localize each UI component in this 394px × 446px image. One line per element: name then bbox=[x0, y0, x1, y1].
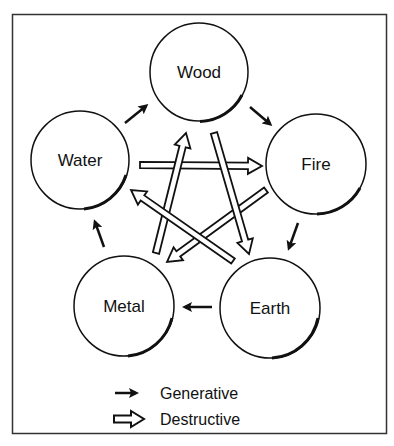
element-label-metal: Metal bbox=[103, 297, 145, 316]
destructive-arrow-icon bbox=[114, 411, 144, 427]
element-node-metal: Metal bbox=[74, 256, 174, 356]
element-node-earth: Earth bbox=[220, 258, 320, 358]
element-node-water: Water bbox=[31, 111, 129, 209]
destructive-arrow-water-to-fire bbox=[140, 158, 262, 174]
element-label-earth: Earth bbox=[250, 299, 291, 318]
element-label-water: Water bbox=[58, 151, 103, 170]
element-node-wood: Wood bbox=[150, 23, 248, 122]
generative-arrow-fire-to-earth bbox=[289, 223, 298, 248]
destructive-arrow-metal-to-wood bbox=[153, 133, 191, 254]
legend-generative: Generative bbox=[115, 385, 238, 402]
five-elements-diagram: Wood Fire Earth Metal Water Generative D… bbox=[0, 0, 394, 446]
destructive-arrows bbox=[131, 132, 268, 264]
element-label-fire: Fire bbox=[301, 155, 330, 174]
destructive-arrow-wood-to-earth bbox=[211, 132, 253, 254]
element-label-wood: Wood bbox=[177, 63, 221, 82]
legend: Generative Destructive bbox=[114, 385, 240, 428]
legend-destructive-label: Destructive bbox=[160, 411, 240, 428]
generative-arrow-metal-to-water bbox=[95, 222, 104, 247]
generative-arrow-water-to-wood bbox=[125, 106, 146, 123]
element-node-fire: Fire bbox=[266, 114, 366, 214]
legend-destructive: Destructive bbox=[114, 411, 240, 428]
generative-arrow-wood-to-fire bbox=[250, 107, 270, 124]
legend-generative-label: Generative bbox=[160, 385, 238, 402]
